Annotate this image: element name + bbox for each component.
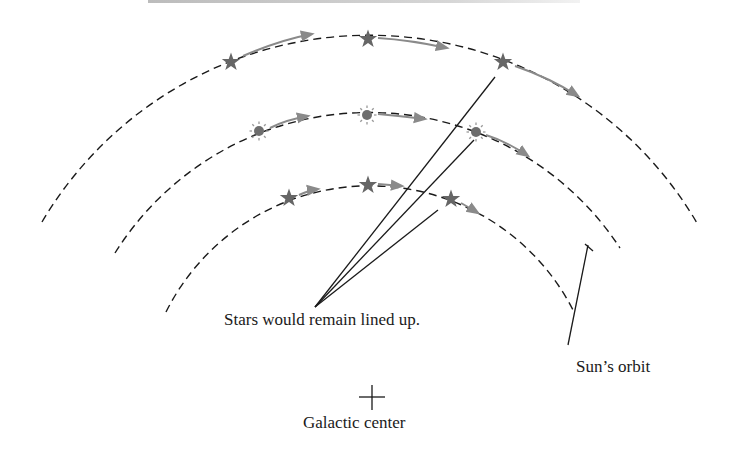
- sun-orbit-pointer: [568, 244, 593, 345]
- sun-icon: [467, 123, 486, 142]
- star-icon: [359, 176, 377, 194]
- lined-up-pointers: [315, 77, 495, 307]
- star-icon: [359, 30, 377, 48]
- orbit-outer: [42, 35, 697, 223]
- galactic-center-label: Galactic center: [303, 413, 405, 433]
- star-icon: [494, 53, 512, 71]
- motion-arrows: [243, 34, 578, 213]
- star-icon: [222, 53, 240, 71]
- sun-icon: [358, 106, 377, 125]
- galactic-orbit-diagram: [0, 0, 729, 456]
- sun-orbit-label: Sun’s orbit: [576, 357, 650, 377]
- galactic-center-cross: [359, 385, 385, 410]
- lined-up-label: Stars would remain lined up.: [224, 310, 420, 330]
